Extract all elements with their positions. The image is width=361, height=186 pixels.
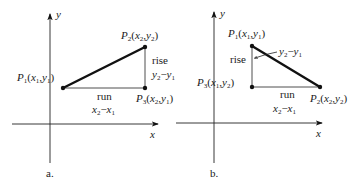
run-label-a: run (97, 90, 112, 102)
label-p3-a: P3(x2,y1) (135, 92, 173, 106)
caption-a: a. (46, 167, 54, 179)
slope-line-a (63, 47, 145, 88)
rise-expr-b: y2−y1 (278, 45, 303, 59)
rise-expr-a: y2−y1 (151, 68, 176, 82)
point-p3-b (250, 85, 254, 89)
run-expr-a: x2−x1 (91, 103, 116, 117)
label-p1-b: P1(x1,y1) (227, 27, 265, 41)
run-expr-b: x2−x1 (272, 102, 297, 116)
point-p3-a (143, 86, 147, 90)
slope-diagrams: y x P1(x1,y1) P2(x2,y2) P3(x2,y1) rise y… (0, 0, 361, 186)
point-p2-b (318, 85, 322, 89)
label-p2-a: P2(x2,y2) (120, 29, 158, 43)
rise-label-a: rise (152, 54, 168, 66)
panel-a: y x P1(x1,y1) P2(x2,y2) P3(x2,y1) rise y… (12, 8, 176, 179)
panel-b: y x P1(x1,y1) P3(x1,y2) P2(x2,y2) rise y… (176, 7, 347, 179)
x-axis-label-b: x (315, 127, 321, 139)
point-p1-a (61, 86, 65, 90)
point-p1-b (250, 44, 254, 48)
caption-b: b. (210, 167, 219, 179)
label-p2-b: P2(x2,y2) (309, 92, 347, 106)
label-p3-b: P3(x1,y2) (196, 76, 234, 90)
label-p1-a: P1(x1,y1) (16, 71, 54, 85)
rise-label-b: rise (230, 53, 246, 65)
x-axis-label-a: x (149, 128, 155, 140)
run-label-b: run (280, 88, 295, 100)
point-p2-a (143, 45, 147, 49)
y-axis-label-b: y (219, 7, 225, 19)
y-axis-label-a: y (55, 8, 61, 20)
